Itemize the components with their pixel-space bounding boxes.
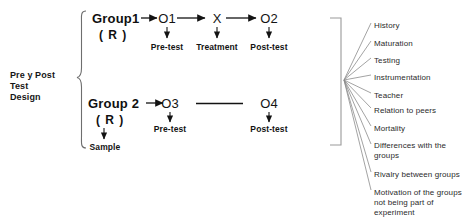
threat-item-maturation: Maturation xyxy=(374,39,413,49)
group1-step-3-token: O2 xyxy=(249,11,289,26)
group2-step-1-token: O3 xyxy=(150,96,190,111)
group2-step-3-token: O4 xyxy=(249,96,289,111)
threat-testing-line-1: Testing xyxy=(374,56,400,66)
threat-item-teacher: Teacher xyxy=(374,91,403,101)
threat-fan-lines xyxy=(344,23,371,190)
threat-rivalry-line-1: Rivalry between groups xyxy=(374,170,460,180)
diagram-title-line-2: Test xyxy=(10,81,80,92)
diagram-title-line-3: Design xyxy=(10,92,80,103)
threat-differences-line-1: Differences with the xyxy=(374,141,446,151)
group2-step-1-caption: Pre-test xyxy=(140,124,200,134)
group1-step-2-caption: Treatment xyxy=(187,42,247,52)
threat-motivation-line-1: Motivation of the groups xyxy=(374,188,462,198)
threat-motivation-line-3: experiment xyxy=(374,208,462,218)
threat-item-differences-with-the-groups: Differences with the groups xyxy=(374,141,446,161)
threat-relation-to-peers-line-1: Relation to peers xyxy=(374,106,436,116)
threat-item-rivalry-between-groups: Rivalry between groups xyxy=(374,170,460,180)
group2-randomization-label: ( R ) xyxy=(96,113,124,127)
threat-differences-line-2: groups xyxy=(374,151,446,161)
group2-step-3-caption: Post-test xyxy=(239,124,299,134)
right-square-bracket xyxy=(330,18,341,145)
threat-instrumentation-line-1: Instrumentation xyxy=(374,73,431,83)
diagram-title-line-1: Pre y Post xyxy=(10,70,80,81)
group1-randomization-label: ( R ) xyxy=(99,28,127,42)
diagram-title: Pre y Post Test Design xyxy=(10,70,80,103)
group1-step-1-token: O1 xyxy=(147,11,187,26)
group1-step-3-caption: Post-test xyxy=(239,42,299,52)
threat-mortality-line-1: Mortality xyxy=(374,124,405,134)
threat-item-motivation-of-the-groups: Motivation of the groups not being part … xyxy=(374,188,462,218)
threat-maturation-line-1: Maturation xyxy=(374,39,413,49)
threat-item-relation-to-peers: Relation to peers xyxy=(374,106,436,116)
group2-label: Group 2 xyxy=(88,96,139,111)
threat-motivation-line-2: not being part of xyxy=(374,198,462,208)
threat-item-history: History xyxy=(374,21,400,31)
threat-item-instrumentation: Instrumentation xyxy=(374,73,431,83)
threat-history-line-1: History xyxy=(374,21,400,31)
group2-sample-caption: Sample xyxy=(76,142,134,152)
threat-item-testing: Testing xyxy=(374,56,400,66)
group1-label: Group1 xyxy=(92,11,139,26)
diagram-canvas: Pre y Post Test Design Group1 ( R ) O1 X… xyxy=(0,0,472,218)
threat-teacher-line-1: Teacher xyxy=(374,91,403,101)
threat-item-mortality: Mortality xyxy=(374,124,405,134)
group1-step-2-token: X xyxy=(197,11,237,26)
